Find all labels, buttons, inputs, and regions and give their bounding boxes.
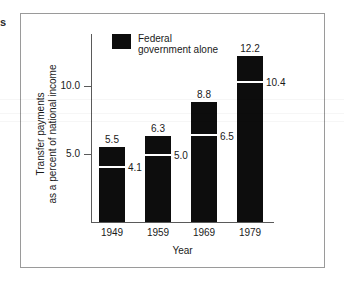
bar-1959-other-segment — [145, 136, 171, 154]
y-axis-title-line-1: Transfer payments — [35, 54, 47, 214]
y-tick-label-10: 10.0 — [61, 81, 80, 91]
bar-1949-other-segment — [99, 147, 125, 166]
x-tick-label-1979: 1979 — [228, 227, 272, 238]
y-tick-label-5: 5.0 — [66, 149, 80, 159]
bar-1959-federal-segment — [145, 156, 171, 222]
bar-1959-total-label: 6.3 — [138, 123, 178, 134]
y-axis-title-line-2: as a percent of national income — [47, 54, 59, 214]
bar-1949 — [99, 147, 125, 222]
bar-1969-federal-label: 6.5 — [220, 131, 234, 142]
bar-1979-other-segment — [237, 56, 263, 81]
bar-1979-total-label: 12.2 — [230, 43, 270, 54]
x-tick-label-1949: 1949 — [90, 227, 134, 238]
x-tick-label-1959: 1959 — [136, 227, 180, 238]
bar-1979-federal-label: 10.4 — [266, 77, 285, 88]
bar-1979-federal-segment — [237, 83, 263, 222]
legend-label-federal: Federal government alone — [138, 33, 218, 55]
bar-1969-federal-segment — [191, 136, 217, 222]
bar-1969 — [191, 102, 217, 222]
y-axis-title: Transfer payments as a percent of nation… — [35, 54, 59, 214]
x-axis-title: Year — [91, 245, 274, 256]
legend-label-line-2: government alone — [138, 44, 218, 55]
bar-chart: 10.0 5.0 Transfer payments as a percent … — [0, 0, 344, 285]
bar-1959-federal-label: 5.0 — [174, 150, 188, 161]
bar-1959 — [145, 136, 171, 222]
bar-1949-federal-label: 4.1 — [128, 162, 142, 173]
legend-swatch-federal — [112, 34, 131, 49]
chart-legend: Federal government alone — [112, 33, 218, 55]
bar-1949-federal-segment — [99, 168, 125, 222]
bar-1979 — [237, 56, 263, 222]
x-axis-line — [91, 222, 274, 223]
bar-1949-total-label: 5.5 — [92, 134, 132, 145]
legend-label-line-1: Federal — [138, 33, 218, 44]
y-tick-10 — [84, 86, 92, 87]
y-tick-5 — [84, 154, 92, 155]
bar-1969-total-label: 8.8 — [184, 89, 224, 100]
y-axis-line — [91, 34, 92, 223]
bar-1969-other-segment — [191, 102, 217, 134]
x-tick-label-1969: 1969 — [182, 227, 226, 238]
